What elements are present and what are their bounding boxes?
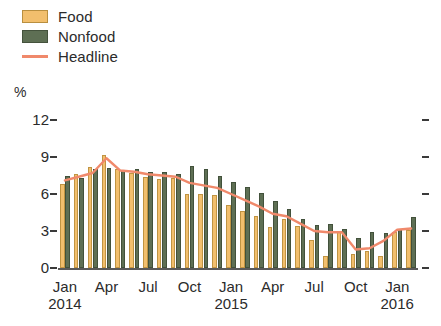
y-axis-unit-label: %	[14, 84, 26, 100]
x-tick-month: Apr	[261, 278, 284, 295]
x-tick-label-Jul: Jul	[305, 278, 324, 295]
x-tick-label-Apr: Apr	[95, 278, 118, 295]
x-tick-month: Jul	[305, 278, 324, 295]
x-axis-labels: Jan2014AprJulOctJan2015AprJulOctJan2016	[0, 278, 441, 326]
x-tick-label-Jan-2015: Jan2015	[214, 278, 247, 312]
y-tick-mark-left-12	[50, 119, 57, 121]
x-tick-year: 2016	[381, 295, 414, 312]
y-tick-mark-left-9	[50, 156, 57, 158]
x-tick-label-Jul: Jul	[138, 278, 157, 295]
inflation-bar-line-chart: Food Nonfood Headline % 129630 Jan2014Ap…	[0, 0, 441, 326]
headline-line-series	[58, 120, 418, 268]
x-axis-baseline	[58, 268, 418, 270]
y-tick-label-6: 6	[41, 186, 49, 201]
x-tick-month: Oct	[178, 278, 201, 295]
x-tick-label-Jan-2016: Jan2016	[381, 278, 414, 312]
x-tick-month: Apr	[95, 278, 118, 295]
y-tick-mark-right-0	[422, 267, 429, 269]
y-tick-mark-right-12	[422, 119, 429, 121]
x-tick-label-Oct: Oct	[178, 278, 201, 295]
y-tick-mark-right-9	[422, 156, 429, 158]
plot-area: 129630	[58, 120, 418, 268]
x-tick-month: Jul	[138, 278, 157, 295]
legend-item-food: Food	[22, 6, 118, 26]
y-tick-label-12: 12	[32, 112, 49, 127]
y-tick-mark-right-6	[422, 193, 429, 195]
legend-label-headline: Headline	[58, 49, 118, 64]
legend-item-headline: Headline	[22, 46, 118, 66]
y-tick-mark-left-0	[50, 267, 57, 269]
legend-label-nonfood: Nonfood	[58, 29, 115, 44]
legend-label-food: Food	[58, 9, 93, 24]
legend-swatch-headline-icon	[22, 50, 48, 63]
y-tick-mark-left-3	[50, 230, 57, 232]
legend-swatch-food-icon	[22, 10, 48, 23]
x-tick-label-Jan-2014: Jan2014	[48, 278, 81, 312]
y-tick-label-9: 9	[41, 149, 49, 164]
y-tick-label-3: 3	[41, 223, 49, 238]
y-tick-mark-left-6	[50, 193, 57, 195]
x-tick-month: Jan	[53, 278, 77, 295]
legend-swatch-nonfood-icon	[22, 30, 48, 43]
headline-polyline	[65, 158, 411, 249]
y-tick-mark-right-3	[422, 230, 429, 232]
legend-item-nonfood: Nonfood	[22, 26, 118, 46]
x-tick-year: 2014	[48, 295, 81, 312]
x-tick-month: Oct	[344, 278, 367, 295]
x-tick-label-Apr: Apr	[261, 278, 284, 295]
x-tick-month: Jan	[219, 278, 243, 295]
x-tick-label-Oct: Oct	[344, 278, 367, 295]
x-tick-year: 2015	[214, 295, 247, 312]
chart-legend: Food Nonfood Headline	[22, 6, 118, 66]
y-tick-label-0: 0	[41, 260, 49, 275]
x-tick-month: Jan	[385, 278, 409, 295]
